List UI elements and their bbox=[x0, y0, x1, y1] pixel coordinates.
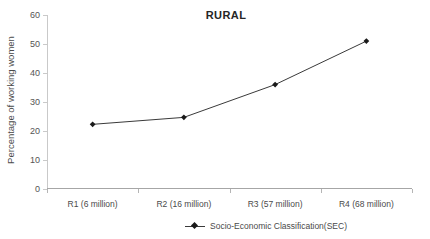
y-tick-label: 0 bbox=[35, 184, 40, 194]
x-tick-label: R2 (16 million) bbox=[156, 199, 211, 209]
y-tick-label: 40 bbox=[30, 68, 40, 78]
x-tick-label: R3 (57 million) bbox=[248, 199, 303, 209]
y-tick-label: 50 bbox=[30, 39, 40, 49]
y-tick-label: 60 bbox=[30, 10, 40, 20]
legend-label: Socio-Economic Classification(SEC) bbox=[210, 221, 347, 231]
x-tick-label: R1 (6 million) bbox=[68, 199, 118, 209]
y-tick-label: 30 bbox=[30, 97, 40, 107]
data-point-marker bbox=[181, 114, 187, 120]
y-axis-title: Percentage of working women bbox=[5, 14, 21, 186]
x-tick bbox=[138, 189, 139, 193]
x-tick bbox=[321, 189, 322, 193]
data-point-marker bbox=[272, 82, 278, 88]
y-tick-label: 10 bbox=[30, 155, 40, 165]
chart-legend: Socio-Economic Classification(SEC) bbox=[51, 221, 430, 231]
legend-marker-icon bbox=[185, 222, 205, 230]
data-point-marker bbox=[90, 121, 96, 127]
x-tick bbox=[47, 189, 48, 193]
plot-area: 0102030405060 R1 (6 million)R2 (16 milli… bbox=[47, 15, 412, 189]
data-series-line bbox=[47, 15, 412, 189]
x-tick bbox=[412, 189, 413, 193]
x-tick bbox=[230, 189, 231, 193]
y-tick-label: 20 bbox=[30, 126, 40, 136]
x-tick-label: R4 (68 million) bbox=[339, 199, 394, 209]
data-point-marker bbox=[363, 38, 369, 44]
chart-container: RURAL Percentage of working women 010203… bbox=[0, 0, 430, 239]
